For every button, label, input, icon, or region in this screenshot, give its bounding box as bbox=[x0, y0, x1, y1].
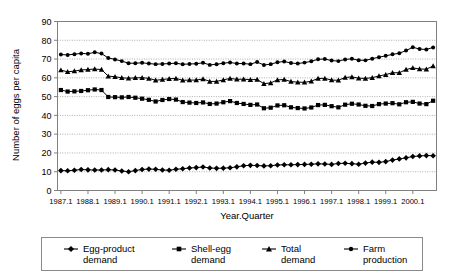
y-tick-label: 80 bbox=[41, 36, 51, 46]
data-point bbox=[99, 52, 103, 56]
data-point bbox=[127, 61, 131, 65]
y-axis-title: Number of eggs per capita bbox=[10, 48, 21, 161]
y-tick-label: 70 bbox=[41, 54, 51, 64]
legend-item-total[interactable]: Totaldemand bbox=[262, 243, 315, 265]
series-egg-product-demand bbox=[58, 153, 436, 175]
data-point bbox=[93, 87, 97, 91]
data-point bbox=[397, 102, 401, 106]
data-point bbox=[147, 98, 151, 102]
data-point bbox=[59, 53, 63, 57]
data-point bbox=[181, 100, 185, 104]
data-point bbox=[309, 59, 313, 63]
data-point bbox=[323, 57, 327, 61]
data-point bbox=[350, 102, 354, 106]
data-point bbox=[342, 160, 348, 166]
x-tick-label: 1999.1 bbox=[374, 197, 397, 206]
data-point bbox=[431, 45, 435, 49]
data-point bbox=[221, 61, 225, 65]
data-point bbox=[308, 161, 314, 167]
legend-label-line2: demand bbox=[281, 254, 315, 265]
data-point bbox=[72, 89, 76, 93]
data-point bbox=[411, 45, 415, 49]
data-point bbox=[384, 101, 388, 105]
data-point bbox=[404, 100, 408, 104]
data-point bbox=[295, 162, 301, 168]
data-point bbox=[187, 101, 191, 105]
data-point bbox=[363, 160, 369, 166]
data-point bbox=[86, 88, 90, 92]
x-tick-label: 1994.1 bbox=[239, 197, 262, 206]
data-point bbox=[288, 162, 294, 168]
data-point bbox=[269, 62, 273, 66]
data-point bbox=[215, 62, 219, 66]
data-point bbox=[397, 51, 401, 55]
data-point bbox=[133, 96, 137, 100]
data-point bbox=[269, 106, 273, 110]
x-tick-label: 1997.1 bbox=[320, 197, 343, 206]
data-point bbox=[113, 95, 117, 99]
data-point bbox=[275, 60, 279, 64]
data-point bbox=[174, 61, 178, 65]
x-tick-label: 1996.1 bbox=[293, 197, 316, 206]
data-point bbox=[282, 103, 286, 107]
data-point bbox=[357, 102, 361, 106]
data-point bbox=[113, 57, 117, 61]
data-point bbox=[289, 61, 293, 65]
data-point bbox=[323, 103, 327, 107]
data-point bbox=[316, 103, 320, 107]
legend-item-egg-product[interactable]: Egg-productdemand bbox=[64, 243, 135, 265]
data-point bbox=[370, 57, 374, 61]
data-point bbox=[194, 62, 198, 66]
x-tick-label: 1993.1 bbox=[212, 197, 235, 206]
data-point bbox=[166, 167, 172, 173]
data-point bbox=[86, 52, 90, 56]
data-point bbox=[296, 62, 300, 66]
series-farm-production bbox=[59, 45, 435, 67]
data-point bbox=[227, 165, 233, 171]
legend-item-farm[interactable]: Farmproduction bbox=[344, 243, 407, 265]
data-point bbox=[268, 163, 274, 169]
data-point bbox=[140, 97, 144, 101]
data-point bbox=[377, 102, 381, 106]
data-point bbox=[228, 99, 232, 103]
data-point bbox=[254, 163, 260, 169]
data-point bbox=[59, 88, 63, 92]
data-point bbox=[133, 61, 137, 65]
data-point bbox=[79, 51, 83, 55]
data-point bbox=[424, 102, 428, 106]
legend-label-line1: Farm bbox=[363, 243, 385, 254]
data-point bbox=[424, 153, 430, 159]
data-point bbox=[343, 57, 347, 61]
legend-item-shell-egg[interactable]: Shell-eggdemand bbox=[172, 243, 231, 265]
data-point bbox=[330, 59, 334, 63]
data-point bbox=[193, 165, 199, 171]
data-point bbox=[126, 169, 132, 175]
data-point bbox=[281, 162, 287, 168]
data-point bbox=[336, 161, 342, 167]
data-point bbox=[336, 105, 340, 109]
data-point bbox=[167, 62, 171, 66]
data-point bbox=[174, 98, 178, 102]
data-point bbox=[410, 65, 415, 70]
data-point bbox=[282, 60, 286, 64]
x-tick-label: 1992.1 bbox=[185, 197, 208, 206]
data-point bbox=[214, 166, 220, 172]
data-point bbox=[65, 168, 71, 174]
data-point bbox=[376, 159, 382, 165]
data-point bbox=[58, 67, 63, 72]
data-point bbox=[309, 105, 313, 109]
data-point bbox=[167, 97, 171, 101]
data-point bbox=[303, 61, 307, 65]
data-point bbox=[383, 159, 389, 165]
data-point bbox=[430, 63, 435, 68]
y-tick-label: 30 bbox=[41, 129, 51, 139]
data-point bbox=[350, 57, 354, 61]
data-point bbox=[208, 63, 212, 67]
x-tick-label: 1988.1 bbox=[76, 197, 99, 206]
data-point bbox=[201, 61, 205, 65]
legend-marker-square bbox=[177, 247, 182, 252]
chart-figure: Number of eggs per capita 01020304050607… bbox=[0, 0, 464, 274]
data-point bbox=[417, 101, 421, 105]
legend-label-line2: demand bbox=[191, 254, 225, 265]
data-point bbox=[241, 163, 247, 169]
